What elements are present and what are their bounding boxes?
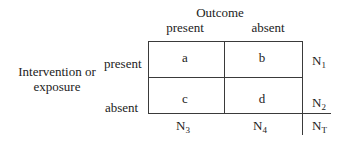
outcome-label: Outcome bbox=[190, 5, 250, 21]
grand-total-sub: T bbox=[321, 125, 327, 135]
column-header-absent: absent bbox=[243, 20, 293, 36]
cell-d: d bbox=[247, 91, 277, 107]
column-total-4-sub: 4 bbox=[262, 125, 267, 135]
row-total-2: N2 bbox=[312, 95, 326, 111]
cell-b: b bbox=[247, 50, 277, 66]
row-total-1-base: N bbox=[312, 53, 321, 68]
grid-middle-border bbox=[148, 77, 303, 78]
grand-total: NT bbox=[312, 118, 327, 134]
grid-left-border bbox=[148, 41, 149, 114]
column-total-3-sub: 3 bbox=[185, 125, 190, 135]
row-title-line2: exposure bbox=[12, 79, 102, 95]
cell-a: a bbox=[170, 50, 200, 66]
row-total-2-sub: 2 bbox=[321, 102, 326, 112]
grid-top-border bbox=[148, 41, 303, 42]
row-total-1: N1 bbox=[312, 53, 326, 69]
column-header-present: present bbox=[160, 20, 210, 36]
grid-middle-vertical bbox=[224, 41, 225, 114]
row-total-1-sub: 1 bbox=[321, 60, 326, 70]
row-total-2-base: N bbox=[312, 95, 321, 110]
row-header-present: present bbox=[104, 56, 142, 72]
column-total-3-base: N bbox=[176, 118, 185, 133]
column-total-3: N3 bbox=[176, 118, 190, 134]
grid-right-border bbox=[302, 41, 303, 135]
cell-c: c bbox=[170, 91, 200, 107]
column-total-4: N4 bbox=[253, 118, 267, 134]
row-title-line1: Intervention or bbox=[12, 64, 102, 80]
grand-total-base: N bbox=[312, 118, 321, 133]
row-header-absent: absent bbox=[105, 100, 138, 116]
column-total-4-base: N bbox=[253, 118, 262, 133]
grid-bottom-border bbox=[148, 113, 331, 114]
